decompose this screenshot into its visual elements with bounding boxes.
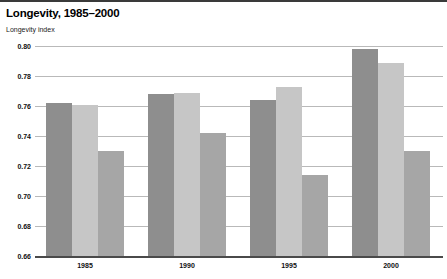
- bar: [276, 87, 302, 257]
- x-axis-tick-label: 1990: [148, 262, 226, 269]
- x-axis-tick-label: 1995: [250, 262, 328, 269]
- bar-group: [148, 46, 226, 256]
- bar-group: [250, 46, 328, 256]
- bar: [174, 93, 200, 257]
- bar: [46, 103, 72, 256]
- y-axis-tick-labels: 0.800.780.760.740.720.700.680.66: [0, 46, 31, 256]
- bar: [378, 63, 404, 257]
- x-axis-tick-label: 2000: [352, 262, 430, 269]
- bar-group: [46, 46, 124, 256]
- bar: [302, 175, 328, 256]
- y-axis-caption: Longevity index: [6, 26, 55, 33]
- y-axis-tick-label: 0.78: [17, 73, 31, 80]
- bar-group: [352, 46, 430, 256]
- x-axis-tick-label: 1985: [46, 262, 124, 269]
- bar: [404, 151, 430, 256]
- y-axis-tick-label: 0.72: [17, 163, 31, 170]
- bar: [98, 151, 124, 256]
- y-axis-tick-label: 0.70: [17, 193, 31, 200]
- y-axis-tick-label: 0.76: [17, 103, 31, 110]
- bar: [72, 105, 98, 257]
- gridline: [35, 256, 443, 258]
- bar: [148, 94, 174, 256]
- bar: [200, 133, 226, 256]
- y-axis-tick-label: 0.68: [17, 223, 31, 230]
- y-axis-tick-label: 0.74: [17, 133, 31, 140]
- y-axis-tick-label: 0.80: [17, 43, 31, 50]
- bar: [250, 100, 276, 256]
- page-title: Longevity, 1985–2000: [6, 7, 119, 19]
- plot-area: [35, 46, 443, 256]
- y-axis-tick-label: 0.66: [17, 253, 31, 260]
- top-rule: [0, 0, 447, 2]
- bar: [352, 49, 378, 256]
